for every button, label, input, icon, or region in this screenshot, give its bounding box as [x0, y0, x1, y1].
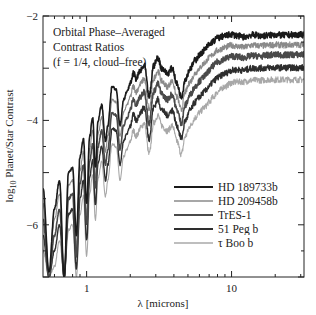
legend-label: TrES-1	[218, 209, 252, 221]
annotation-line-2: Contrast Ratios	[53, 41, 125, 53]
y-tick-label: −6	[26, 219, 38, 231]
y-tick-label: −4	[26, 114, 38, 126]
contrast-ratio-chart: 110−2−4−6 Orbital Phase–Averaged Contras…	[0, 0, 316, 315]
annotation-line-3: (f = 1/4, cloud–free)	[53, 56, 147, 69]
annotation-line-1: Orbital Phase–Averaged	[53, 26, 165, 39]
legend-item: τ Boo b	[172, 235, 282, 249]
x-tick-label: 10	[226, 282, 238, 294]
y-axis-title-rest: Planet/Star Contrast	[3, 89, 15, 180]
y-axis-title-subscript: 10	[9, 180, 18, 188]
legend-item: HD 189733b	[172, 179, 282, 193]
legend-label: HD 209458b	[218, 195, 278, 207]
legend-label: τ Boo b	[218, 237, 254, 249]
x-axis-title: λ [microns]	[138, 297, 189, 309]
legend-label: 51 Peg b	[218, 223, 259, 236]
legend: HD 189733bHD 209458bTrES-151 Peg bτ Boo …	[172, 179, 282, 249]
legend-label: HD 189733b	[218, 181, 278, 193]
legend-item: 51 Peg b	[172, 221, 282, 236]
y-axis-title-log: log	[3, 188, 15, 203]
annotation-block: Orbital Phase–Averaged Contrast Ratios (…	[53, 26, 165, 69]
legend-item: HD 209458b	[172, 193, 282, 207]
y-tick-label: −2	[26, 10, 38, 22]
y-axis-title: log10 Planet/Star Contrast	[3, 89, 18, 202]
x-tick-label: 1	[84, 282, 90, 294]
legend-item: TrES-1	[172, 207, 282, 221]
